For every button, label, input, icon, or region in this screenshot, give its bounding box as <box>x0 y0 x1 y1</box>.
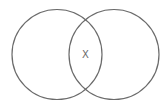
intersection-label: X <box>82 49 89 60</box>
venn-diagram: X <box>0 0 165 105</box>
